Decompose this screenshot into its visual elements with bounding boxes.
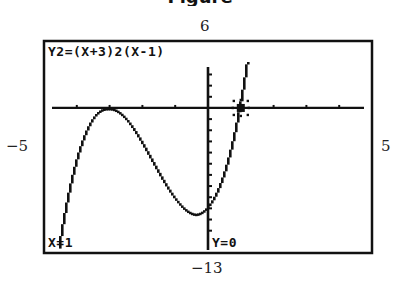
- trace-y-value: Y=0: [212, 235, 237, 250]
- calculator-graph-screen: Y2=(X+3)2(X-1) X=1 Y=0: [0, 0, 395, 289]
- trace-x-value: X=1: [48, 235, 73, 250]
- equation-label: Y2=(X+3)2(X-1): [48, 44, 165, 59]
